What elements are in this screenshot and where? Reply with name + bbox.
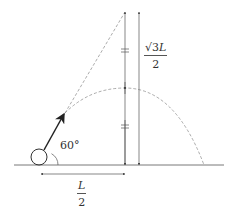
- trajectory-arc: [65, 88, 204, 165]
- angle-arc: [52, 154, 59, 165]
- base-label-numerator: L: [77, 179, 86, 194]
- height-label-numerator: √3L: [144, 41, 167, 56]
- angle-label: 60°: [60, 140, 80, 151]
- base-label: L 2: [77, 179, 86, 209]
- diagram-canvas: [0, 0, 236, 211]
- height-label: √3L 2: [144, 41, 167, 71]
- velocity-extension-dashed: [65, 12, 125, 113]
- height-label-denominator: 2: [144, 56, 167, 71]
- ball-circle: [31, 149, 47, 165]
- base-label-denominator: 2: [77, 194, 86, 209]
